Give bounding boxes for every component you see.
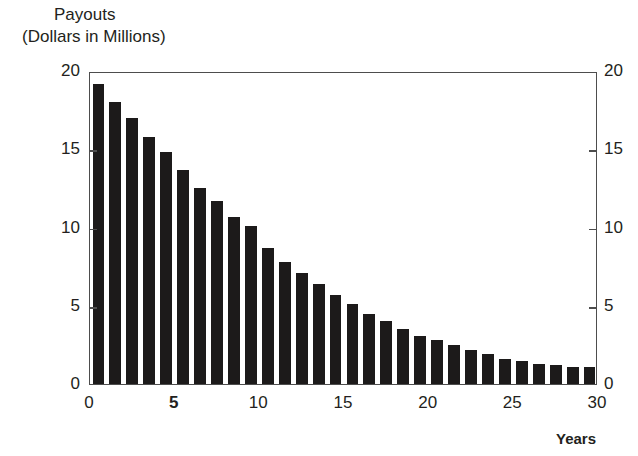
bar — [363, 314, 375, 384]
y-tick-left — [90, 229, 97, 231]
bar — [93, 84, 105, 384]
y-tick-right — [589, 150, 596, 152]
bar — [211, 201, 223, 384]
y-tick-label-right: 15 — [604, 139, 638, 159]
bar — [431, 340, 443, 384]
bar — [296, 273, 308, 384]
bar — [330, 295, 342, 384]
bar — [567, 367, 579, 384]
bar — [262, 248, 274, 384]
bar — [448, 345, 460, 384]
bar — [550, 365, 562, 384]
x-axis-title: Years — [556, 430, 596, 447]
chart-title: Payouts — [22, 4, 166, 26]
y-tick-label-right: 20 — [604, 61, 638, 81]
bar — [533, 364, 545, 384]
x-tick-label: 10 — [238, 393, 278, 413]
x-tick-label: 0 — [69, 393, 109, 413]
x-tick-label: 5 — [154, 393, 194, 413]
y-tick-label-right: 5 — [604, 296, 638, 316]
y-tick-label-right: 10 — [604, 218, 638, 238]
bar — [347, 304, 359, 384]
bar — [465, 350, 477, 384]
y-tick-label-left: 5 — [40, 296, 80, 316]
bar — [279, 262, 291, 384]
x-tick-label: 25 — [492, 393, 532, 413]
plot-area — [90, 73, 596, 384]
y-tick-label-left: 10 — [40, 218, 80, 238]
y-tick-right — [589, 229, 596, 231]
bar — [109, 102, 121, 384]
x-tick-label: 15 — [323, 393, 363, 413]
bar — [584, 367, 596, 384]
bar — [380, 321, 392, 384]
y-tick-left — [90, 307, 97, 309]
chart-subtitle: (Dollars in Millions) — [22, 26, 166, 48]
plot-frame — [89, 72, 597, 385]
bar — [126, 118, 138, 384]
bar — [482, 354, 494, 384]
payouts-bar-chart: Payouts (Dollars in Millions) 20151050 2… — [0, 0, 638, 456]
bar — [228, 217, 240, 384]
y-tick-label-right: 0 — [604, 374, 638, 394]
bar — [499, 359, 511, 384]
chart-title-block: Payouts (Dollars in Millions) — [22, 4, 166, 48]
bar — [143, 137, 155, 384]
x-tick-label: 20 — [408, 393, 448, 413]
bar — [397, 329, 409, 384]
y-tick-label-left: 0 — [40, 374, 80, 394]
y-tick-label-left: 20 — [40, 61, 80, 81]
bar — [160, 152, 172, 384]
bar — [194, 188, 206, 384]
y-tick-label-left: 15 — [40, 139, 80, 159]
x-tick-label: 30 — [577, 393, 617, 413]
bar — [177, 170, 189, 384]
bar — [516, 361, 528, 384]
bar — [245, 226, 257, 384]
y-tick-left — [90, 150, 97, 152]
bar — [313, 284, 325, 384]
bar — [414, 336, 426, 385]
y-tick-right — [589, 307, 596, 309]
